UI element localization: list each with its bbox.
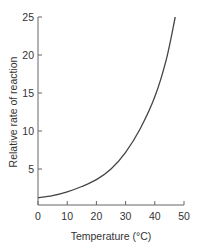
x-axis-label: Temperature (°C) bbox=[71, 230, 152, 242]
y-tick-label: 20 bbox=[22, 49, 34, 61]
line-chart: 01020304050510152025 Temperature (°C) Re… bbox=[0, 0, 203, 249]
x-tick-label: 40 bbox=[149, 210, 161, 222]
rate-curve bbox=[38, 17, 175, 198]
axes: 01020304050510152025 bbox=[22, 11, 190, 222]
x-tick-label: 20 bbox=[91, 210, 103, 222]
y-axis-label: Relative rate of reaction bbox=[7, 56, 19, 167]
y-tick-label: 10 bbox=[22, 125, 34, 137]
y-tick-label: 25 bbox=[22, 11, 34, 23]
x-tick-label: 10 bbox=[61, 210, 73, 222]
x-tick-label: 30 bbox=[120, 210, 132, 222]
y-tick-label: 5 bbox=[28, 163, 34, 175]
y-tick-label: 15 bbox=[22, 87, 34, 99]
x-tick-label: 50 bbox=[178, 210, 190, 222]
x-tick-label: 0 bbox=[35, 210, 41, 222]
